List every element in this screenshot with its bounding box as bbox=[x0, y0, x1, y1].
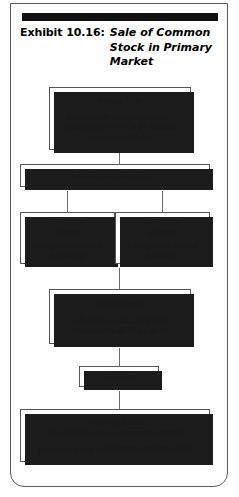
syndicate-left-title-1: Syndicate bbox=[50, 216, 84, 227]
issuing-firm-title: Issuing Firm bbox=[98, 95, 142, 106]
issuing-firm-detail-3: investment bankers) bbox=[86, 132, 153, 142]
node-selling-group[interactable]: Selling Group (sells stock to public for… bbox=[49, 289, 191, 344]
syndicate-right-detail-2: in offering) bbox=[142, 251, 183, 261]
connector-selling-group-to-brokers bbox=[119, 348, 120, 366]
node-issuing-firm[interactable]: Issuing Firm (firm needs $9.5 million of… bbox=[49, 87, 191, 150]
lead-banker-title: Lead Investment Banker bbox=[72, 170, 158, 181]
brokers-title: Brokers bbox=[105, 371, 133, 382]
node-lead-investment-banker[interactable]: Lead Investment Banker bbox=[20, 164, 210, 187]
node-investing-public[interactable]: Investing Public (pays $10.00 per share … bbox=[20, 409, 210, 462]
node-syndicate-member-left[interactable]: Syndicate Member (takes pro rata positio… bbox=[20, 212, 115, 264]
investing-public-title: Investing Public bbox=[86, 417, 143, 428]
connector-lead-banker-to-syndicate-right bbox=[162, 191, 163, 212]
issuing-firm-detail-1: (firm needs $9.5 million of capital; bbox=[64, 113, 176, 123]
connector-lead-banker-to-syndicate-left bbox=[67, 191, 68, 212]
syndicate-left-title-2: Member bbox=[53, 227, 82, 238]
node-syndicate-member-right[interactable]: Syndicate Member (takes pro rata positio… bbox=[115, 212, 210, 264]
connector-brokers-to-investing-public bbox=[119, 391, 120, 409]
exhibit-frame: Exhibit 10.16: Sale of Common Stock in P… bbox=[10, 3, 228, 487]
selling-group-detail-1: (sells stock to public for $10.00; bbox=[68, 316, 172, 326]
syndicate-right-title-2: Member bbox=[148, 227, 177, 238]
exhibit-number-label: Exhibit 10.16: bbox=[20, 26, 105, 41]
selling-group-detail-2: commission is $0.50 per share) bbox=[70, 326, 171, 336]
exhibit-title-block: Exhibit 10.16: Sale of Common Stock in P… bbox=[20, 26, 220, 70]
issuing-firm-detail-2: sells 1 million shares at $9.50 net to bbox=[62, 123, 177, 133]
node-brokers[interactable]: Brokers bbox=[79, 366, 159, 387]
syndicate-left-detail-1: (takes pro rata position bbox=[30, 241, 106, 251]
page-title: Sale of Common Stock in Primary Market bbox=[110, 26, 218, 70]
selling-group-title: Selling Group bbox=[95, 298, 144, 309]
syndicate-left-detail-2: in offering) bbox=[47, 251, 88, 261]
connector-syndicate-to-selling-group bbox=[119, 268, 120, 289]
investing-public-detail-2: underwriting costs = $500,000/$9,500,000… bbox=[35, 445, 194, 455]
investing-public-detail-1: (pays $10.00 per share in primary offeri… bbox=[46, 428, 183, 438]
title-top-rule bbox=[22, 13, 218, 21]
syndicate-right-title-1: Syndicate bbox=[145, 216, 179, 227]
syndicate-right-detail-1: (takes pro rata position bbox=[125, 241, 201, 251]
